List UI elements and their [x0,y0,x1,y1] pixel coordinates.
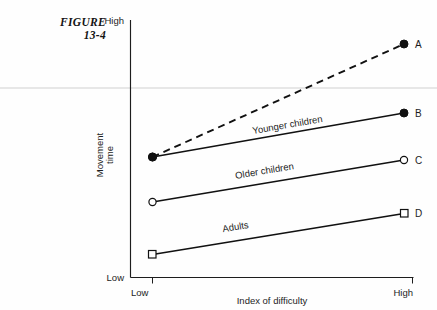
series-a-marker-end [400,40,408,48]
series-line-a [153,44,405,157]
series-line-d [153,214,405,255]
series-d-marker-end [401,210,409,218]
x-axis-title: Index of difficulty [237,295,308,306]
series-a-marker-start [149,153,157,161]
y-tick-label-high: High [104,15,124,26]
series-c-inline-label: Older children [234,160,294,181]
series-d-inline-label: Adults [222,219,250,234]
line-chart: High Low Low High Index of difficulty Mo… [0,0,437,310]
figure-root: FIGURE 13-4 High Low Low High Index of d… [0,0,437,310]
series-c-point-label: C [415,155,422,166]
y-tick-label-low: Low [107,272,125,283]
x-tick-label-high: High [393,287,413,298]
series-a-point-label: A [415,39,422,50]
series-d-marker-start [149,251,157,259]
series-c-marker-end [400,156,407,163]
series-c-marker-start [149,198,156,205]
series-b-point-label: B [415,108,422,119]
series-d-point-label: D [415,208,422,219]
y-axis-title-line-2: time [104,146,115,164]
series-b-marker-end [400,109,408,117]
x-tick-label-low: Low [131,287,149,298]
